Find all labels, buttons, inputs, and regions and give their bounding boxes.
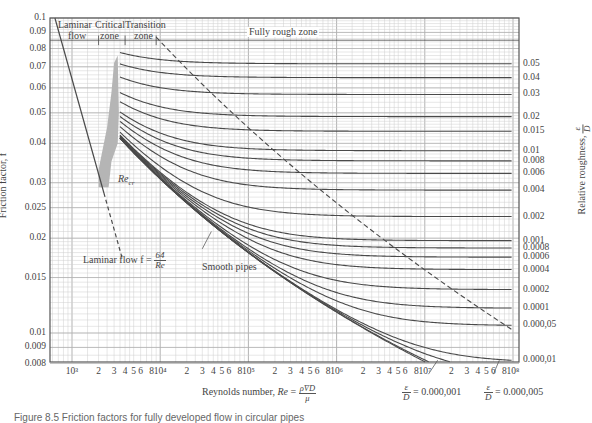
y-tick-label: 0.02 — [2, 233, 46, 243]
y-tick-label: 0.008 — [2, 359, 46, 369]
x-tick-label: 10⁵ — [233, 367, 263, 377]
roughness-tick-label: 0.004 — [523, 185, 544, 195]
zone-transition-label-1: Transition — [125, 20, 166, 30]
smooth-pipes-label: Smooth pipes — [202, 262, 257, 272]
eps-0.000005-label: εD = 0.000,005 — [484, 383, 543, 402]
annotation-lines — [50, 18, 519, 374]
eps-0.000001-label: εD = 0.000,001 — [402, 383, 461, 402]
y-tick-label: 0.08 — [2, 44, 46, 54]
zone-critical-label-2: zone — [100, 31, 119, 41]
roughness-axis-label: Relative roughness, εD — [573, 125, 592, 215]
roughness-tick-label: 0.05 — [523, 59, 540, 69]
x-tick-label: 10⁷ — [410, 367, 440, 377]
zone-fully-rough-label: Fully rough zone — [247, 27, 319, 37]
roughness-tick-label: 0.015 — [523, 126, 544, 136]
zone-laminar-label-2: flow — [68, 31, 86, 41]
y-tick-label: 0.04 — [2, 138, 46, 148]
roughness-tick-label: 0.000,05 — [523, 320, 556, 330]
roughness-tick-label: 0.03 — [523, 89, 540, 99]
x-tick-label: 10³ — [57, 367, 87, 377]
y-tick-label: 0.09 — [2, 27, 46, 37]
roughness-tick-label: 0.0006 — [523, 252, 549, 262]
roughness-tick-label: 0.0001 — [523, 303, 549, 313]
x-tick-label: 10⁴ — [145, 367, 175, 377]
re-critical-label: Recr — [118, 174, 134, 187]
chart-grid — [50, 18, 519, 364]
roughness-curves — [120, 52, 512, 361]
y-tick-label: 0.03 — [2, 178, 46, 188]
zone-transition-label-2: zone — [134, 31, 153, 41]
zone-critical-label-1: Critical — [95, 20, 125, 30]
x-tick-label: 10⁶ — [322, 367, 352, 377]
y-tick-label: 0.01 — [2, 328, 46, 338]
y-tick-label: 0.025 — [2, 203, 46, 213]
y-tick-label: 0.1 — [2, 13, 46, 23]
y-tick-label: 0.06 — [2, 83, 46, 93]
roughness-tick-label: 0.008 — [523, 156, 544, 166]
y-tick-label: 0.07 — [2, 62, 46, 72]
zone-laminar-label-1: Laminar — [58, 20, 92, 30]
y-tick-label: 0.009 — [2, 342, 46, 352]
roughness-tick-label: 0.000,01 — [523, 355, 556, 365]
roughness-tick-label: 0.01 — [523, 146, 540, 156]
y-tick-label: 0.05 — [2, 108, 46, 118]
roughness-tick-label: 0.02 — [523, 112, 540, 122]
roughness-tick-label: 0.04 — [523, 73, 540, 83]
roughness-tick-label: 0.006 — [523, 168, 544, 178]
roughness-tick-label: 0.0002 — [523, 285, 549, 295]
roughness-tick-label: 0.0004 — [523, 265, 549, 275]
x-tick-label: 10⁸ — [498, 367, 528, 377]
laminar-equation-label: Laminar flow f = 64Re — [83, 251, 166, 270]
y-axis-label: Friction factor, f — [0, 153, 8, 218]
y-tick-label: 0.015 — [2, 273, 46, 283]
figure-caption: Figure 8.5 Friction factors for fully de… — [14, 412, 304, 423]
roughness-tick-label: 0.002 — [523, 212, 544, 222]
x-axis-label: Reynolds number, Re = ρV̄Dμ — [202, 384, 316, 402]
